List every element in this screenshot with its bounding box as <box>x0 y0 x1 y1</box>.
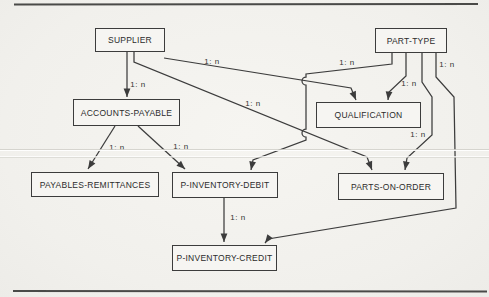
cardinality-label-part-type-qualification: 1: n <box>401 79 417 88</box>
node-label: PARTS-ON-ORDER <box>351 182 431 192</box>
node-part-type: PART-TYPE <box>375 28 447 53</box>
arrowhead-icon <box>88 160 95 169</box>
node-label: PART-TYPE <box>387 36 436 46</box>
arrowhead-icon <box>350 91 356 100</box>
edge-part-type-to-p-inventory-credit <box>265 53 456 243</box>
cardinality-label-p-inventory-debit-p-inventory-credit: 1: n <box>230 213 246 222</box>
node-label: P-INVENTORY-DEBIT <box>180 180 269 190</box>
top-rule <box>14 4 478 5</box>
arrowhead-icon <box>221 234 228 243</box>
node-parts-on-order: PARTS-ON-ORDER <box>338 173 444 200</box>
edge-supplier-to-qualification <box>164 58 356 100</box>
node-label: PAYABLES-REMITTANCES <box>40 180 151 190</box>
node-label: SUPPLIER <box>108 35 152 45</box>
arrowhead-icon <box>403 161 410 170</box>
cardinality-label-part-type-parts-on-order: 1: n <box>410 130 426 139</box>
node-supplier: SUPPLIER <box>95 28 165 52</box>
node-p-inventory-credit: P-INVENTORY-CREDIT <box>172 245 277 271</box>
cardinality-label-part-type-p-inventory-credit: 1: n <box>439 60 455 69</box>
cardinality-label-accounts-payable-payables-remittances: 1: n <box>109 143 125 152</box>
arrowhead-icon <box>366 161 372 170</box>
cardinality-label-supplier-qualification: 1: n <box>204 57 220 66</box>
node-qualification: QUALIFICATION <box>316 102 421 128</box>
node-label: QUALIFICATION <box>335 110 403 120</box>
cardinality-label-accounts-payable-p-inventory-debit: 1: n <box>173 142 189 151</box>
cardinality-label-part-type-p-inventory-debit: 1: n <box>339 58 355 67</box>
bottom-rule <box>13 291 487 292</box>
node-label: P-INVENTORY-CREDIT <box>177 253 273 263</box>
node-p-inventory-debit: P-INVENTORY-DEBIT <box>172 172 278 198</box>
arrowhead-icon <box>386 91 393 100</box>
cardinality-label-supplier-accounts-payable: 1: n <box>130 80 146 89</box>
arrowhead-icon <box>265 234 273 243</box>
arrowhead-icon <box>249 161 256 170</box>
node-payables-remittances: PAYABLES-REMITTANCES <box>31 172 159 197</box>
scanned-diagram-figure: SUPPLIERPART-TYPEACCOUNTS-PAYABLEQUALIFI… <box>0 0 489 297</box>
node-accounts-payable: ACCOUNTS-PAYABLE <box>73 99 180 126</box>
node-label: ACCOUNTS-PAYABLE <box>81 108 172 118</box>
cardinality-label-supplier-parts-on-order: 1: n <box>245 99 261 108</box>
arrowhead-icon <box>124 89 131 98</box>
